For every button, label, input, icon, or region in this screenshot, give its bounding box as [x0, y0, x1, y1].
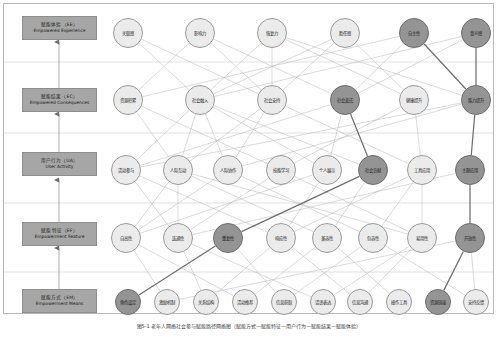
node-ee-2[interactable]: 恢复力 [257, 18, 287, 48]
node-label: 恢复力 [266, 30, 278, 36]
edge [137, 112, 170, 158]
node-ua-0[interactable]: 活动参与 [111, 155, 141, 185]
node-ef-2[interactable]: 重复性 [213, 223, 243, 253]
edge [424, 44, 466, 89]
node-label: 开放性 [464, 235, 476, 241]
node-em-1[interactable]: 激励机制 [154, 289, 180, 315]
edge [134, 251, 160, 291]
edge [331, 115, 342, 156]
layer-label-en: User Activity [46, 164, 74, 170]
node-ua-2[interactable]: 人际协作 [213, 155, 243, 185]
layer-box-ef: 赋能特征（EF）Empowerment Feature [22, 222, 97, 246]
node-label: 自主性 [408, 30, 420, 36]
node-ec-5[interactable]: 能力提升 [461, 85, 491, 115]
node-label: 资源积累 [120, 97, 137, 103]
node-ef-0[interactable]: 自高性 [111, 223, 141, 253]
node-em-5[interactable]: 话语表达 [310, 289, 336, 315]
node-ef-5[interactable]: 包容性 [358, 223, 388, 253]
node-label: 技能学习 [273, 167, 290, 173]
node-ec-0[interactable]: 资源积累 [113, 85, 143, 115]
node-ua-4[interactable]: 个人展示 [312, 155, 342, 185]
node-ef-7[interactable]: 开放性 [455, 223, 485, 253]
node-label: 工具应用 [414, 167, 431, 173]
edge [295, 247, 361, 295]
node-label: 活动推荐 [237, 299, 254, 305]
node-ee-4[interactable]: 自主性 [399, 18, 429, 48]
edge [182, 114, 195, 155]
node-label: 胜任感 [339, 30, 351, 36]
node-ec-1[interactable]: 社会融入 [185, 85, 215, 115]
node-ef-4[interactable]: 兼容性 [312, 223, 342, 253]
edge [293, 247, 350, 293]
node-label: 激励机制 [159, 299, 176, 305]
node-label: 话语表达 [315, 299, 332, 305]
node-ua-7[interactable]: 主题应用 [455, 155, 485, 185]
node-label: 个人展示 [319, 167, 336, 173]
layer-box-ec: 赋能结果（EC）Empowered Consequences [22, 88, 97, 112]
node-ua-6[interactable]: 工具应用 [407, 155, 437, 185]
node-ua-5[interactable]: 社会贡献 [358, 155, 388, 185]
edge [192, 176, 314, 232]
node-em-7[interactable]: 操作工具 [386, 289, 412, 315]
node-label: 意义感 [470, 30, 482, 36]
node-ec-3[interactable]: 社会变迁 [330, 85, 360, 115]
node-label: 资源链接 [430, 299, 447, 305]
node-label: 支持反馈 [468, 299, 485, 305]
figure-canvas: 赋能体验（EE）Empowered Experience赋能结果（EC）Empo… [0, 0, 498, 337]
edge [416, 115, 421, 155]
node-em-2[interactable]: 关系结构 [193, 289, 219, 315]
node-label: 响应性 [275, 235, 287, 241]
node-ec-4[interactable]: 健康提升 [399, 85, 429, 115]
edge [255, 247, 315, 294]
node-label: 活动参与 [118, 167, 135, 173]
node-ee-3[interactable]: 胜任感 [330, 18, 360, 48]
node-label: 关联感 [122, 30, 134, 36]
figure-caption: 图5-1 老年人网络社会参与赋能路径网络图（赋能方式—赋能特征—用户行为—赋能结… [0, 322, 498, 329]
node-ua-1[interactable]: 人际互动 [163, 155, 193, 185]
edge [191, 178, 269, 229]
edge [382, 182, 413, 226]
node-em-0[interactable]: 角色设定 [115, 289, 141, 315]
node-label: 社会变迁 [337, 97, 354, 103]
node-ee-0[interactable]: 关联感 [113, 18, 143, 48]
node-em-4[interactable]: 信息获取 [271, 289, 297, 315]
node-em-9[interactable]: 支持反馈 [463, 289, 489, 315]
edge [236, 113, 264, 158]
node-label: 能力提升 [468, 97, 485, 103]
node-em-3[interactable]: 活动推荐 [232, 289, 258, 315]
edge [286, 38, 461, 96]
layer-label-en: Empowerment Feature [34, 234, 84, 240]
edge [142, 106, 268, 164]
node-label: 主题应用 [462, 167, 479, 173]
node-label: 易用性 [416, 235, 428, 241]
node-label: 社会贡献 [365, 167, 382, 173]
node-em-6[interactable]: 信息沟通 [347, 289, 373, 315]
layer-box-em: 赋能方式（EM）Empowerment Means [22, 289, 97, 313]
edge [294, 107, 400, 163]
node-label: 人际协作 [220, 167, 237, 173]
edge [335, 182, 364, 225]
node-ef-3[interactable]: 响应性 [266, 223, 296, 253]
node-em-8[interactable]: 资源链接 [425, 289, 451, 315]
node-label: 人际互动 [170, 167, 187, 173]
node-label: 社会支持 [264, 97, 281, 103]
edge [139, 246, 215, 295]
node-ef-6[interactable]: 易用性 [407, 223, 437, 253]
layer-label-en: Empowerment Means [36, 301, 84, 307]
node-ee-5[interactable]: 意义感 [461, 18, 491, 48]
edge [471, 253, 474, 289]
node-label: 角色设定 [120, 299, 137, 305]
layer-label-en: Empowered Experience [34, 28, 86, 34]
node-ec-2[interactable]: 社会支持 [257, 85, 287, 115]
layer-label-en: Empowered Consequences [30, 100, 89, 106]
node-ef-1[interactable]: 连通性 [163, 223, 193, 253]
node-ee-1[interactable]: 影响力 [185, 18, 215, 48]
edge [334, 246, 409, 295]
edge [471, 115, 474, 155]
node-label: 包容性 [367, 235, 379, 241]
node-label: 连通性 [172, 235, 184, 241]
edge [190, 109, 260, 161]
edge [444, 251, 463, 290]
node-label: 社会融入 [192, 97, 209, 103]
node-ua-3[interactable]: 技能学习 [266, 155, 296, 185]
